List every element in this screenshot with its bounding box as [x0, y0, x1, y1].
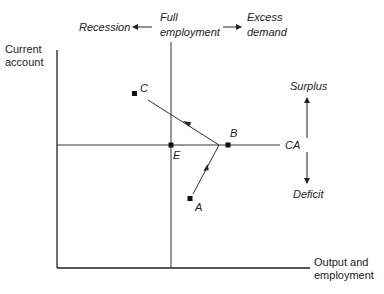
x-axis-label-line1: Output and [314, 256, 368, 269]
point-b-label: B [230, 127, 237, 140]
ca-label: CA [285, 139, 300, 152]
y-axis-label-line2: account [5, 56, 44, 69]
arrow-left-on-path-icon [183, 121, 192, 127]
surplus-label: Surplus [290, 80, 327, 93]
excess-demand-label-line1: Excess [247, 11, 282, 24]
point-e-label: E [173, 149, 180, 162]
path-b-to-c [148, 100, 219, 145]
point-b-marker [226, 143, 231, 148]
point-c-marker [132, 91, 137, 96]
full-employment-label-line1: Full [160, 11, 178, 24]
diagram-canvas: Current account Output and employment Re… [0, 0, 384, 294]
diagram-svg [0, 0, 384, 294]
deficit-label: Deficit [293, 188, 324, 201]
excess-demand-label-line2: demand [247, 26, 287, 39]
point-a-label: A [195, 201, 202, 214]
point-a-marker [188, 196, 193, 201]
full-employment-label-line2: employment [160, 26, 220, 39]
point-e-marker [169, 143, 174, 148]
y-axis-label-line1: Current [5, 43, 42, 56]
recession-label: Recession [79, 21, 130, 34]
x-axis-label-line2: employment [314, 269, 374, 282]
point-c-label: C [140, 82, 148, 95]
